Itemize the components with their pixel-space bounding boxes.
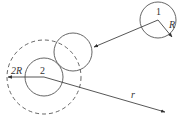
double-radius-label: 2R	[11, 65, 22, 76]
distance-arrow	[44, 77, 165, 112]
distance-label: r	[131, 89, 135, 100]
radius-label: R	[168, 19, 175, 30]
collision-diagram: 1 R 2 2R r	[0, 0, 183, 120]
trajectory-arrow	[94, 20, 158, 47]
particle-1-label: 1	[156, 6, 161, 17]
moved-particle-circle	[54, 33, 92, 71]
particle-2-label: 2	[40, 65, 45, 76]
